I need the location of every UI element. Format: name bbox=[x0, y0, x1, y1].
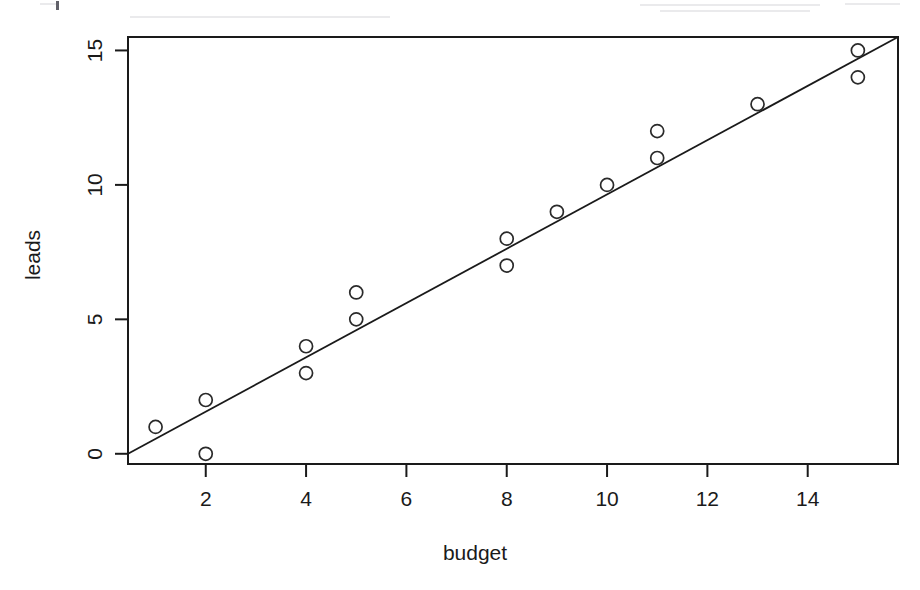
y-axis-title: leads bbox=[21, 230, 44, 280]
x-tick-label: 2 bbox=[200, 487, 212, 510]
data-point-marker bbox=[651, 152, 664, 165]
y-tick-label: 5 bbox=[83, 313, 106, 325]
x-tick-label: 10 bbox=[595, 487, 618, 510]
x-tick-label: 4 bbox=[300, 487, 312, 510]
data-point-marker bbox=[851, 44, 864, 57]
plot-frame bbox=[128, 37, 898, 464]
data-point-marker bbox=[601, 178, 614, 191]
x-tick-label: 8 bbox=[501, 487, 513, 510]
data-point-marker bbox=[199, 394, 212, 407]
x-tick-label: 14 bbox=[796, 487, 820, 510]
data-point-marker bbox=[300, 340, 313, 353]
data-point-marker bbox=[751, 98, 764, 111]
data-point-marker bbox=[350, 313, 363, 326]
data-point-marker bbox=[550, 205, 563, 218]
data-point-marker bbox=[199, 447, 212, 460]
data-point-marker bbox=[500, 232, 513, 245]
y-axis-ticks bbox=[115, 50, 128, 453]
regression-line bbox=[128, 37, 898, 454]
scatter-plot-figure: 2468101214 051015 budget leads bbox=[0, 0, 920, 590]
data-point-marker bbox=[350, 286, 363, 299]
regression-line-path bbox=[128, 37, 898, 454]
plot-canvas: 2468101214 051015 budget leads bbox=[0, 0, 920, 590]
y-axis-tick-labels: 051015 bbox=[83, 39, 106, 460]
x-tick-label: 12 bbox=[696, 487, 719, 510]
x-axis-ticks bbox=[206, 464, 808, 477]
y-tick-label: 10 bbox=[83, 173, 106, 196]
y-tick-label: 15 bbox=[83, 39, 106, 62]
data-point-marker bbox=[149, 420, 162, 433]
data-point-marker bbox=[300, 367, 313, 380]
x-axis-tick-labels: 2468101214 bbox=[200, 487, 820, 510]
data-point-marker bbox=[651, 125, 664, 138]
x-axis-title: budget bbox=[443, 541, 507, 564]
data-point-marker bbox=[851, 71, 864, 84]
x-tick-label: 6 bbox=[401, 487, 413, 510]
data-points bbox=[149, 44, 864, 460]
data-point-marker bbox=[500, 259, 513, 272]
y-tick-label: 0 bbox=[83, 448, 106, 460]
